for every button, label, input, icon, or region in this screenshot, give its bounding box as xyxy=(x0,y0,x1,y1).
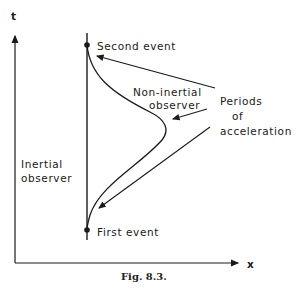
periods-label-line2: of xyxy=(232,110,243,122)
t-axis-label: t xyxy=(11,10,17,22)
second-event-dot xyxy=(84,42,90,48)
first-event-label: First event xyxy=(97,226,159,238)
periods-label-line3: acceleration xyxy=(220,125,292,137)
x-axis-label: x xyxy=(247,258,254,270)
non-inertial-worldline xyxy=(87,45,166,230)
non-inertial-label-line2: observer xyxy=(149,99,200,111)
first-event-dot xyxy=(84,227,90,233)
second-event-label: Second event xyxy=(97,40,176,52)
inertial-label-line2: observer xyxy=(21,172,72,184)
periods-label-line1: Periods xyxy=(220,95,262,107)
arrow-to-second-event xyxy=(97,56,215,88)
inertial-label-line1: Inertial xyxy=(21,158,63,170)
arrow-to-first-event xyxy=(99,127,210,208)
figure-caption: Fig. 8.3. xyxy=(121,271,167,282)
non-inertial-label-line1: Non-inertial xyxy=(133,86,202,98)
